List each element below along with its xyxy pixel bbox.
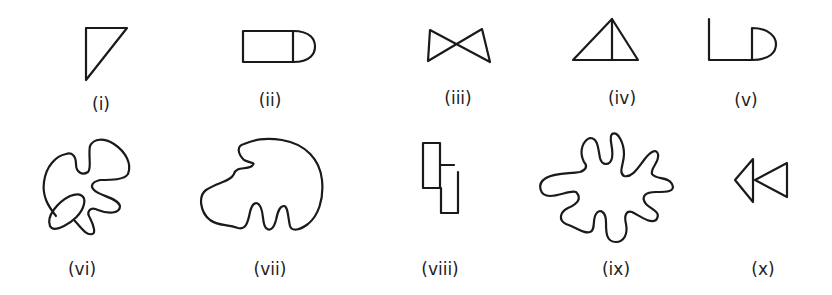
blob-shape: [44, 140, 130, 235]
triangle-shape: [573, 19, 638, 60]
curved-blob-shape: [201, 139, 322, 230]
shape-label-vii: (vii): [254, 259, 287, 279]
shape-label-iii: (iii): [444, 88, 471, 108]
shape-vi: (vi): [44, 140, 130, 279]
left-triangle-shape: [735, 159, 753, 202]
shape-v: (v): [709, 19, 776, 110]
lobed-blob-shape: [540, 133, 673, 242]
right-triangle-pointing-left-shape: [755, 163, 787, 197]
shape-vii: (vii): [201, 139, 322, 279]
shape-label-ii: (ii): [259, 90, 282, 110]
right-triangle-shape: [86, 28, 127, 80]
shape-label-ix: (ix): [602, 259, 630, 279]
semicircle-shape: [293, 31, 315, 62]
rectangle-shape: [243, 31, 293, 62]
shape-label-iv: (iv): [608, 88, 636, 108]
shape-label-v: (v): [734, 90, 757, 110]
shape-label-viii: (viii): [421, 259, 459, 279]
shape-viii: (viii): [421, 143, 459, 279]
d-shape: [752, 28, 776, 60]
shape-ix: (ix): [540, 133, 673, 279]
shape-i: (i): [86, 28, 127, 114]
shape-ii: (ii): [243, 31, 315, 110]
lower-rectangle-shape: [440, 165, 458, 213]
shape-x: (x): [735, 159, 787, 279]
shape-label-vi: (vi): [68, 259, 96, 279]
bowtie-shape: [428, 29, 490, 62]
shape-iii: (iii): [428, 29, 490, 108]
shape-label-x: (x): [751, 259, 774, 279]
upper-rectangle-shape: [423, 143, 440, 188]
shape-label-i: (i): [92, 94, 110, 114]
l-shape: [709, 19, 752, 60]
shape-iv: (iv): [573, 19, 638, 108]
oval-shape: [49, 194, 84, 229]
shapes-figure: (i) (ii) (iii) (iv) (v) (vi) (vii) (viii…: [0, 0, 832, 295]
